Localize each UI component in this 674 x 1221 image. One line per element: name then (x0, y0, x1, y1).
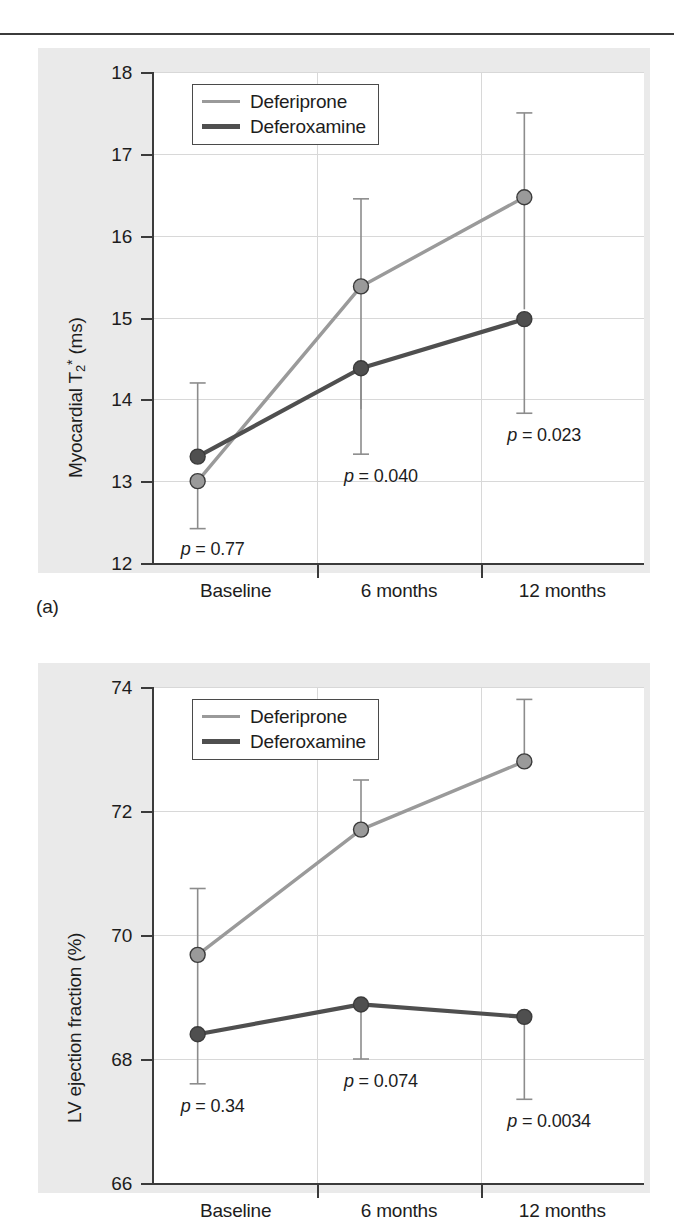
x-axis-tick (481, 1185, 483, 1198)
x-axis-tick-label: Baseline (200, 580, 271, 602)
chart-panel-b: 6668707274Baseline6 months12 months LV e… (38, 663, 650, 1193)
y-axis-tick (141, 72, 152, 74)
y-axis-tick-label: 68 (86, 1049, 132, 1071)
legend-label-deferiprone: Deferiprone (250, 91, 347, 113)
data-point-deferiprone (517, 190, 532, 205)
panel-label-a: (a) (36, 596, 59, 618)
y-axis-tick-label: 17 (86, 144, 132, 166)
error-bar (516, 113, 532, 309)
legend-b: Deferiprone Deferoxamine (192, 699, 379, 760)
legend-swatch-deferoxamine (202, 124, 240, 129)
data-point-deferoxamine (354, 361, 369, 376)
x-axis-tick-label: 6 months (361, 1200, 438, 1221)
y-axis-tick (141, 399, 152, 401)
y-axis-line (152, 687, 154, 1185)
y-axis-label-a: Myocardial T2* (ms) (64, 317, 88, 478)
legend-row-deferiprone: Deferiprone (202, 89, 366, 114)
y-axis-tick-label: 13 (86, 471, 132, 493)
y-axis-tick-label: 14 (86, 389, 132, 411)
y-axis-tick (141, 935, 152, 937)
x-axis-tick (317, 1185, 319, 1198)
legend-swatch-deferiprone (202, 715, 240, 718)
data-point-deferoxamine (190, 449, 205, 464)
error-bar (516, 319, 532, 413)
y-axis-tick-label: 66 (86, 1173, 132, 1195)
p-value-annotation: p = 0.074 (344, 1071, 418, 1092)
data-point-deferoxamine (354, 997, 369, 1012)
data-point-deferiprone (354, 279, 369, 294)
data-point-deferiprone (354, 822, 369, 837)
data-point-deferiprone (190, 947, 205, 962)
y-axis-line (152, 72, 154, 565)
chart-panel-a: 12131415161718Baseline6 months12 months … (38, 48, 650, 573)
legend-label-deferiprone: Deferiprone (250, 706, 347, 728)
y-axis-tick (141, 154, 152, 156)
y-axis-tick (141, 1183, 152, 1185)
p-value-annotation: p = 0.023 (507, 425, 581, 446)
legend-row-deferiprone: Deferiprone (202, 704, 366, 729)
data-point-deferoxamine (517, 312, 532, 327)
x-axis-tick (317, 565, 319, 578)
error-bar (190, 383, 206, 457)
x-axis-line (152, 563, 644, 565)
data-point-deferoxamine (190, 1027, 205, 1042)
error-bar (353, 368, 369, 454)
y-axis-tick (141, 318, 152, 320)
data-point-deferiprone (190, 474, 205, 489)
y-axis-tick (141, 811, 152, 813)
y-axis-tick-label: 74 (86, 677, 132, 699)
x-axis-tick-label: 12 months (519, 580, 606, 602)
y-axis-tick (141, 563, 152, 565)
y-axis-tick-label: 15 (86, 308, 132, 330)
y-axis-tick-label: 72 (86, 801, 132, 823)
y-axis-tick (141, 1059, 152, 1061)
legend-swatch-deferoxamine (202, 739, 240, 744)
legend-label-deferoxamine: Deferoxamine (250, 731, 366, 753)
legend-label-deferoxamine: Deferoxamine (250, 116, 366, 138)
x-axis-tick-label: Baseline (200, 1200, 271, 1221)
y-axis-tick-label: 70 (86, 925, 132, 947)
y-axis-tick-label: 16 (86, 226, 132, 248)
data-point-deferiprone (517, 754, 532, 769)
x-axis-line (152, 1183, 644, 1185)
legend-row-deferoxamine: Deferoxamine (202, 114, 366, 139)
error-bar (516, 699, 532, 761)
header-divider (0, 33, 674, 35)
p-value-annotation: p = 0.34 (181, 1096, 245, 1117)
p-value-annotation: p = 0.77 (181, 539, 245, 560)
x-axis-tick-label: 6 months (361, 580, 438, 602)
x-axis-tick (481, 565, 483, 578)
legend-swatch-deferiprone (202, 100, 240, 103)
error-bar (190, 889, 206, 1041)
p-value-annotation: p = 0.040 (344, 466, 418, 487)
error-bar (516, 1017, 532, 1099)
p-value-annotation: p = 0.0034 (507, 1111, 591, 1132)
y-axis-tick-label: 18 (86, 62, 132, 84)
x-axis-tick-label: 12 months (519, 1200, 606, 1221)
y-axis-tick (141, 687, 152, 689)
legend-row-deferoxamine: Deferoxamine (202, 729, 366, 754)
y-axis-tick-label: 12 (86, 553, 132, 575)
y-axis-tick (141, 481, 152, 483)
data-point-deferoxamine (517, 1009, 532, 1024)
legend-a: Deferiprone Deferoxamine (192, 84, 379, 145)
y-axis-label-b: LV ejection fraction (%) (64, 933, 86, 1123)
y-axis-tick (141, 236, 152, 238)
